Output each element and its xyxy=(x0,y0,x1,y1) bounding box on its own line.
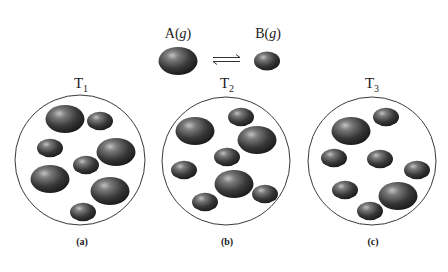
molecule-b-icon xyxy=(254,52,280,71)
molecule-b-icon xyxy=(321,149,347,168)
molecule-b-icon xyxy=(192,193,218,212)
molecule-b-icon xyxy=(171,161,197,180)
molecule-b-icon xyxy=(37,139,63,158)
molecule-a-icon xyxy=(97,138,136,166)
molecule-b-icon xyxy=(87,112,113,131)
panel-b xyxy=(162,97,290,225)
panels-layer xyxy=(15,95,436,225)
equilibrium-harpoons-icon xyxy=(213,55,240,65)
molecule-b-icon xyxy=(252,185,278,204)
molecule-a-icon xyxy=(31,165,70,193)
molecule-a-icon xyxy=(238,126,277,154)
molecule-b-icon xyxy=(373,108,399,127)
molecule-b-icon xyxy=(228,108,254,127)
molecule-b-icon xyxy=(214,148,240,167)
diagram-graphics xyxy=(0,0,448,272)
molecule-a-icon xyxy=(379,182,418,210)
molecule-a-icon xyxy=(46,105,85,133)
panel-c xyxy=(308,97,436,225)
equilibrium-diagram: A(g) B(g) T1 T2 T3 (a) (b) (c) xyxy=(0,0,448,272)
molecule-b-icon xyxy=(70,203,96,222)
molecule-b-icon xyxy=(332,181,358,200)
molecule-b-icon xyxy=(357,202,383,221)
molecule-b-icon xyxy=(73,156,99,175)
molecule-a-icon xyxy=(176,117,215,145)
molecule-b-icon xyxy=(367,150,393,169)
panel-a xyxy=(15,95,145,225)
molecule-b-icon xyxy=(404,161,430,180)
molecule-a-icon xyxy=(215,170,254,198)
molecule-a-icon xyxy=(159,47,198,75)
molecule-a-icon xyxy=(332,117,371,145)
molecule-a-icon xyxy=(91,177,130,205)
